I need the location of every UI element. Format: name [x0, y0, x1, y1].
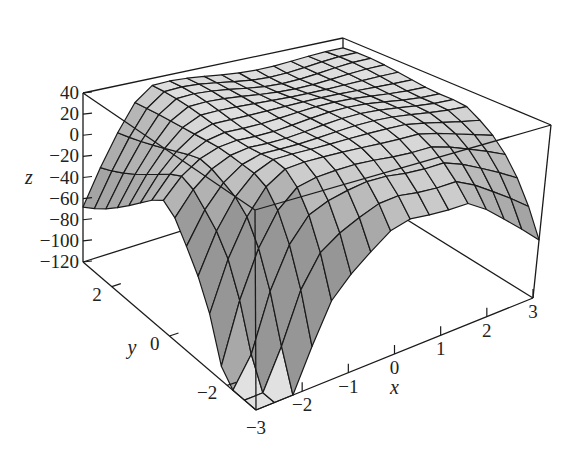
- x-tick-label: −2: [292, 394, 312, 415]
- chart-container: 40200−20−40−60−80−100−120z −202y −3−2−10…: [0, 0, 575, 456]
- z-tick-label: −100: [40, 230, 79, 251]
- y-tick-label: 0: [150, 333, 160, 354]
- z-tick-label: 0: [70, 124, 80, 145]
- x-tick-label: 3: [528, 301, 538, 322]
- surface-mesh: [83, 48, 539, 410]
- z-tick-label: −20: [49, 145, 79, 166]
- x-tick-label: −1: [338, 376, 358, 397]
- z-axis: 40200−20−40−60−80−100−120z: [24, 82, 92, 272]
- z-tick-label: −80: [49, 209, 79, 230]
- x-tick-label: −3: [246, 417, 266, 438]
- z-tick-label: −40: [49, 167, 79, 188]
- z-tick-label: −120: [40, 251, 79, 272]
- y-tick-label: −2: [197, 382, 217, 403]
- x-tick-label: 0: [390, 357, 400, 378]
- z-axis-label: z: [24, 166, 33, 188]
- y-tick-label: 2: [92, 284, 102, 305]
- z-tick-label: −60: [49, 188, 79, 209]
- x-axis-label: x: [389, 376, 399, 398]
- z-tick-label: 40: [60, 82, 79, 103]
- surface-plot: 40200−20−40−60−80−100−120z −202y −3−2−10…: [0, 0, 575, 456]
- y-axis-label: y: [126, 336, 137, 359]
- z-tick-label: 20: [60, 103, 79, 124]
- x-tick-label: 2: [482, 320, 492, 341]
- x-tick-label: 1: [436, 338, 446, 359]
